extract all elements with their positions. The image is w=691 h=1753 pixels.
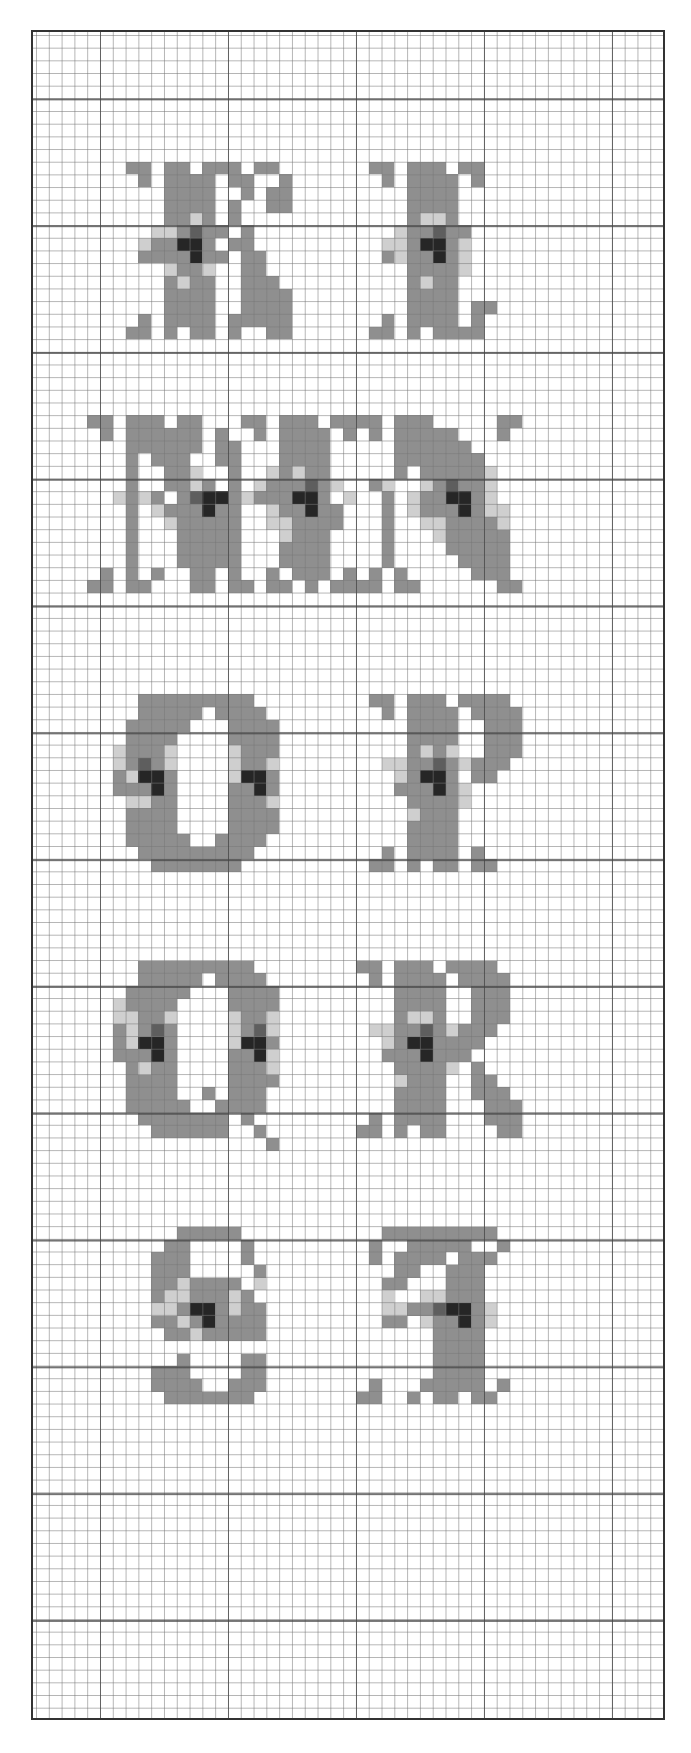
stitch-cell [177, 1392, 190, 1405]
stitch-cell [254, 415, 267, 428]
stitch-cell [433, 1366, 446, 1379]
stitch-cell [394, 1011, 407, 1024]
stitch-cell [369, 162, 382, 175]
stitch-cell [177, 986, 190, 999]
stitch-cell [164, 301, 177, 314]
stitch-cell [305, 530, 318, 543]
stitch-cell [433, 263, 446, 276]
stitch-cell [126, 1100, 139, 1113]
stitch-cell [458, 1354, 471, 1367]
stitch-cell [510, 1113, 523, 1126]
stitch-cell [228, 1328, 241, 1341]
stitch-cell [497, 720, 510, 733]
stitch-cell [420, 517, 433, 530]
stitch-cell [164, 1379, 177, 1392]
stitch-cell [254, 999, 267, 1012]
stitch-cell [484, 758, 497, 771]
stitch-cell [164, 834, 177, 847]
stitch-cell [241, 1354, 254, 1367]
stitch-cell [126, 732, 139, 745]
stitch-cell [215, 961, 228, 974]
stitch-cell [177, 834, 190, 847]
stitch-cell [202, 530, 215, 543]
stitch-cell [177, 542, 190, 555]
stitch-cell [228, 834, 241, 847]
stitch-cell [241, 847, 254, 860]
stitch-cell [433, 834, 446, 847]
stitch-cell [151, 973, 164, 986]
stitch-cell [471, 327, 484, 340]
stitch-cell [305, 542, 318, 555]
stitch-cell [394, 441, 407, 454]
stitch-cell [330, 517, 343, 530]
stitch-cell [420, 301, 433, 314]
stitch-cell [382, 1316, 395, 1329]
stitch-cell [458, 961, 471, 974]
stitch-cell [113, 770, 126, 783]
stitch-cell [407, 428, 420, 441]
stitch-cell [215, 1125, 228, 1138]
stitch-cell [254, 301, 267, 314]
stitch-cell [446, 327, 459, 340]
stitch-cell [202, 238, 215, 251]
stitch-cell [266, 821, 279, 834]
stitch-cell [394, 1024, 407, 1037]
stitch-cell [382, 847, 395, 860]
stitch-cell [228, 580, 241, 593]
stitch-cell [177, 174, 190, 187]
stitch-cell [407, 859, 420, 872]
stitch-cell [228, 517, 241, 530]
stitch-cell [215, 1113, 228, 1126]
stitch-cell [254, 1316, 267, 1329]
stitch-cell [305, 568, 318, 581]
stitch-cell [382, 327, 395, 340]
stitch-cell [471, 1037, 484, 1050]
stitch-cell [138, 694, 151, 707]
stitch-cell [471, 758, 484, 771]
stitch-cell [420, 314, 433, 327]
stitch-cell [151, 1379, 164, 1392]
stitch-cell [318, 542, 331, 555]
stitch-cell [202, 694, 215, 707]
stitch-cell [407, 745, 420, 758]
stitch-cell [471, 504, 484, 517]
stitch-cell [215, 251, 228, 264]
stitch-cell [497, 1125, 510, 1138]
stitch-cell [266, 517, 279, 530]
stitch-cell [151, 720, 164, 733]
stitch-cell [394, 1075, 407, 1088]
stitch-cell [215, 1392, 228, 1405]
stitch-cell [433, 1062, 446, 1075]
stitch-cell [202, 1303, 215, 1316]
stitch-cell [446, 745, 459, 758]
stitch-cell [254, 1037, 267, 1050]
stitch-cell [292, 555, 305, 568]
stitch-cell [446, 758, 459, 771]
stitch-cell [433, 1290, 446, 1303]
stitch-cell [471, 847, 484, 860]
stitch-cell [215, 1100, 228, 1113]
stitch-cell [407, 174, 420, 187]
stitch-cell [177, 973, 190, 986]
stitch-cell [458, 1328, 471, 1341]
stitch-cell [433, 1328, 446, 1341]
stitch-cell [407, 973, 420, 986]
stitch-cell [484, 720, 497, 733]
stitch-cell [420, 808, 433, 821]
stitch-cell [318, 568, 331, 581]
stitch-cell [484, 1252, 497, 1265]
stitch-cell [266, 1075, 279, 1088]
stitch-cell [164, 1075, 177, 1088]
stitch-cell [394, 783, 407, 796]
stitch-cell [394, 1100, 407, 1113]
stitch-cell [279, 517, 292, 530]
stitch-cell [138, 415, 151, 428]
stitch-cell [446, 1049, 459, 1062]
stitch-cell [433, 732, 446, 745]
stitch-cell [471, 517, 484, 530]
stitch-cell [458, 453, 471, 466]
stitch-cell [266, 466, 279, 479]
stitch-cell [279, 479, 292, 492]
stitch-cell [177, 555, 190, 568]
stitch-cell [471, 1366, 484, 1379]
